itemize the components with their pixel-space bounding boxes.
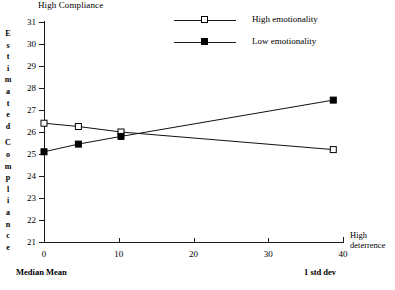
open-square-data-point [330, 147, 336, 153]
series-line [44, 100, 333, 152]
open-square-data-point [75, 124, 81, 130]
filled-square-data-point [41, 149, 47, 155]
series-layer [0, 0, 395, 290]
filled-square-data-point [118, 133, 124, 139]
filled-square-data-point [75, 141, 81, 147]
series-line [44, 123, 333, 149]
open-square-data-point [41, 120, 47, 126]
chart-figure: High Compliance Estimated Compliance 212… [0, 0, 395, 290]
filled-square-data-point [330, 97, 336, 103]
